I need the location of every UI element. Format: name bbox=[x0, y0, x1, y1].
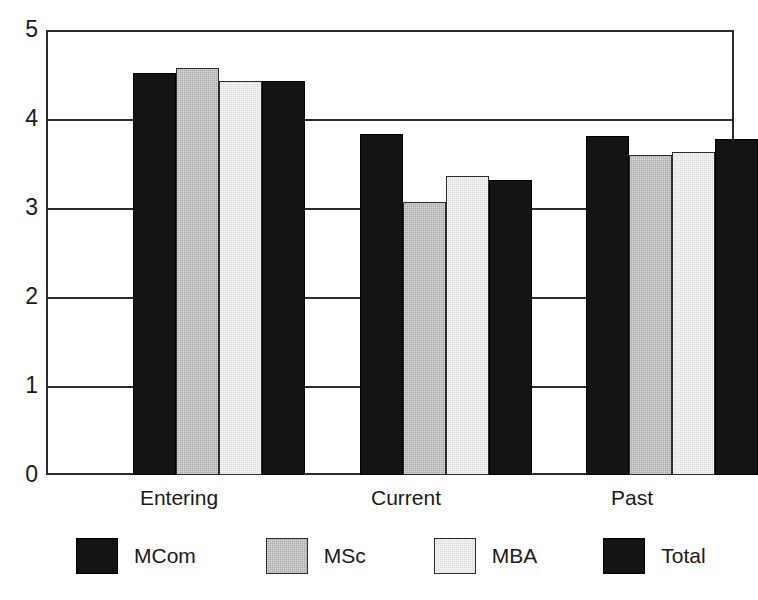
bar-mcom-current bbox=[360, 134, 403, 475]
bar-total-current bbox=[489, 180, 532, 475]
bars-layer bbox=[46, 30, 734, 475]
legend-label-mcom: MCom bbox=[134, 545, 196, 567]
category-label-current: Current bbox=[371, 487, 441, 509]
legend-item-mba[interactable]: MBA bbox=[434, 536, 538, 576]
legend-label-mba: MBA bbox=[492, 545, 538, 567]
legend-item-msc[interactable]: MSc bbox=[266, 536, 366, 576]
legend-label-total: Total bbox=[661, 545, 705, 567]
bar-mba-entering bbox=[219, 81, 262, 475]
legend-swatch-mcom-icon bbox=[76, 538, 118, 574]
bar-total-past bbox=[715, 139, 758, 475]
legend-item-mcom[interactable]: MCom bbox=[76, 536, 196, 576]
category-label-entering: Entering bbox=[140, 487, 218, 509]
bar-msc-entering bbox=[176, 68, 219, 475]
bar-total-entering bbox=[262, 81, 305, 475]
y-tick-label-2: 2 bbox=[10, 285, 38, 308]
bar-mcom-entering bbox=[133, 73, 176, 475]
y-tick-label-0: 0 bbox=[10, 463, 38, 486]
legend: MComMScMBATotal bbox=[76, 536, 706, 576]
y-tick-label-5: 5 bbox=[10, 18, 38, 41]
bar-msc-past bbox=[629, 155, 672, 475]
legend-label-msc: MSc bbox=[324, 545, 366, 567]
category-label-past: Past bbox=[611, 487, 653, 509]
bar-msc-current bbox=[403, 202, 446, 475]
legend-swatch-mba-icon bbox=[434, 538, 476, 574]
y-tick-label-4: 4 bbox=[10, 107, 38, 130]
legend-swatch-total-icon bbox=[603, 538, 645, 574]
bar-mcom-past bbox=[586, 136, 629, 475]
legend-item-total[interactable]: Total bbox=[603, 536, 705, 576]
bar-mba-current bbox=[446, 176, 489, 475]
y-tick-label-3: 3 bbox=[10, 196, 38, 219]
bar-mba-past bbox=[672, 152, 715, 475]
y-tick-label-1: 1 bbox=[10, 374, 38, 397]
legend-swatch-msc-icon bbox=[266, 538, 308, 574]
